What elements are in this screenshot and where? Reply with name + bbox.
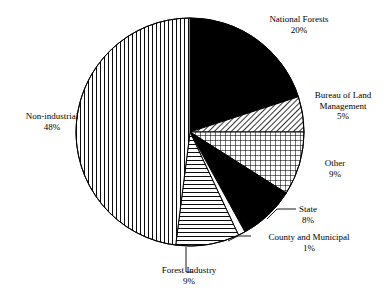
slice-label-other: Other 9% <box>305 158 365 179</box>
slice-label-blm-line1: Bureau of Land <box>315 90 371 100</box>
slice-label-non-industrial-percent: 48% <box>6 122 98 133</box>
slice-label-blm-percent: 5% <box>300 111 386 122</box>
pie-chart-canvas <box>0 0 389 302</box>
slice-label-other-percent: 9% <box>305 169 365 180</box>
slice-label-bureau-of-land-management: Bureau of Land Management 5% <box>300 90 386 122</box>
pie-chart-figure: National Forests 20% Bureau of Land Mana… <box>0 0 389 302</box>
slice-label-forest-industry: Forest Industry 9% <box>141 265 237 286</box>
pie-slices-group <box>76 18 304 246</box>
slice-label-other-name: Other <box>325 158 346 168</box>
slice-label-non-industrial: Non-industrial 48% <box>6 111 98 132</box>
slice-label-state: State 8% <box>282 204 334 225</box>
slice-label-blm-line2: Management <box>300 101 386 112</box>
slice-label-national-forests: National Forests 20% <box>247 14 351 35</box>
slice-label-county-percent: 1% <box>242 243 376 254</box>
slice-label-non-industrial-name: Non-industrial <box>26 111 79 121</box>
slice-label-forest-industry-name: Forest Industry <box>162 265 217 275</box>
slice-label-county-name: County and Municipal <box>269 232 350 242</box>
slice-label-national-forests-name: National Forests <box>269 14 328 24</box>
slice-label-county-and-municipal: County and Municipal 1% <box>242 232 376 253</box>
slice-label-state-name: State <box>299 204 317 214</box>
slice-label-national-forests-percent: 20% <box>247 25 351 36</box>
slice-label-state-percent: 8% <box>282 215 334 226</box>
slice-label-forest-industry-percent: 9% <box>141 276 237 287</box>
